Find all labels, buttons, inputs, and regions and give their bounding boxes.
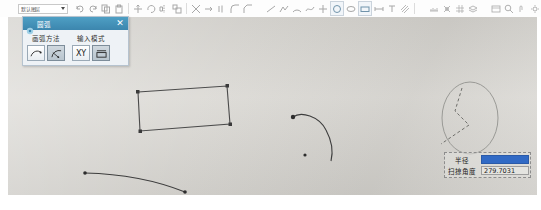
input-mode-label: 输入模式 — [77, 33, 106, 43]
curve-start-marker — [83, 171, 87, 175]
rectangle-icon[interactable] — [358, 1, 372, 16]
arc-method-buttons — [27, 45, 65, 61]
measurement-panel[interactable]: 半径 33.01766 扫掠角度 279.7031 — [444, 152, 531, 178]
arc-center-marker — [303, 153, 306, 156]
measure-icon[interactable] — [428, 2, 440, 15]
spline-icon[interactable] — [304, 2, 316, 15]
dialog-title-bar[interactable]: 圆弧 ✕ — [23, 17, 128, 30]
pan-icon[interactable] — [516, 2, 528, 15]
extend-icon[interactable] — [203, 2, 215, 15]
text-icon[interactable] — [386, 2, 398, 15]
close-icon[interactable]: ✕ — [115, 19, 125, 29]
arc-start-marker — [291, 115, 295, 119]
top-toolbar: 默认图层 — [0, 0, 541, 17]
curve-end-marker — [183, 190, 187, 194]
layer-icon[interactable] — [467, 2, 479, 15]
radius-label: 半径 — [446, 155, 478, 165]
snap-icon[interactable] — [441, 2, 453, 15]
gear-icon — [26, 20, 34, 28]
sweep-angle-label: 扫掠角度 — [446, 166, 478, 176]
settings-icon[interactable] — [529, 2, 541, 15]
arc-three-point-button[interactable] — [27, 45, 45, 61]
arc-method-label: 画弧方法 — [32, 33, 61, 43]
circle-preview-shape — [442, 82, 498, 154]
scale-icon[interactable] — [171, 2, 183, 15]
dimension-icon[interactable] — [373, 2, 385, 15]
chamfer-icon[interactable] — [242, 2, 254, 15]
layer-selector-value: 默认图层 — [21, 5, 40, 12]
ellipse-icon[interactable] — [345, 2, 357, 15]
arc-icon[interactable] — [291, 2, 303, 15]
sweep-angle-row: 扫掠角度 279.7031 — [446, 165, 529, 176]
paste-icon[interactable] — [113, 2, 125, 15]
toolbar-icon-group — [74, 1, 541, 16]
rect-vertex-marker — [139, 130, 143, 134]
toolbar-divider — [414, 3, 415, 14]
layer-selector-dropdown[interactable]: 默认图层 — [18, 4, 68, 14]
copy-icon[interactable] — [100, 2, 112, 15]
zoom-icon[interactable] — [503, 2, 515, 15]
input-mode-parametric-button[interactable] — [92, 45, 110, 61]
radius-row: 半径 33.01766 — [446, 154, 529, 165]
curve-shape — [85, 173, 185, 192]
input-mode-xy-button[interactable]: XY — [72, 45, 90, 61]
xy-label: XY — [76, 49, 86, 58]
rect-vertex-marker — [229, 123, 233, 127]
polyline-icon[interactable] — [278, 2, 290, 15]
undo-icon[interactable] — [74, 2, 86, 15]
fillet-icon[interactable] — [229, 2, 241, 15]
properties-icon[interactable] — [490, 2, 502, 15]
rectangle-shape — [138, 86, 230, 131]
offset-icon[interactable] — [216, 2, 228, 15]
arc-shape — [293, 115, 332, 161]
point-icon[interactable] — [317, 2, 329, 15]
sweep-angle-field[interactable]: 279.7031 — [481, 166, 529, 175]
arc-method-group: 画弧方法 — [27, 33, 65, 61]
rect-vertex-marker — [136, 90, 140, 94]
mirror-icon[interactable] — [158, 2, 170, 15]
chevron-down-icon — [61, 7, 65, 10]
hatch-icon[interactable] — [399, 2, 411, 15]
rect-vertex-marker — [226, 84, 230, 88]
redo-icon[interactable] — [87, 2, 99, 15]
arc-tool-dialog[interactable]: 圆弧 ✕ 画弧方法 — [22, 16, 129, 66]
toolbar-divider — [186, 3, 187, 14]
trim-icon[interactable] — [190, 2, 202, 15]
rotate-icon[interactable] — [145, 2, 157, 15]
dialog-body: 画弧方法 输入模式 — [23, 30, 128, 65]
line-icon[interactable] — [265, 2, 277, 15]
arc-center-radius-button[interactable] — [47, 45, 65, 61]
move-icon[interactable] — [132, 2, 144, 15]
input-mode-buttons: XY — [72, 45, 110, 61]
grid-icon[interactable] — [454, 2, 466, 15]
toolbar-divider — [128, 3, 129, 14]
dialog-title: 圆弧 — [37, 19, 112, 29]
input-mode-group: 输入模式 XY — [72, 33, 110, 61]
radius-field[interactable]: 33.01766 — [481, 155, 529, 164]
circle-icon[interactable] — [330, 1, 344, 16]
